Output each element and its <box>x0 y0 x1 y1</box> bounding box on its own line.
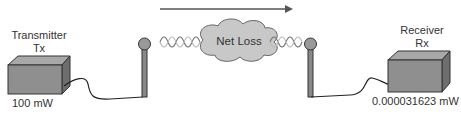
receiver-power: 0.000031623 mW <box>372 95 460 108</box>
receiver-abbr: Rx <box>392 37 452 50</box>
receiver-box <box>388 51 450 92</box>
transmitter-cable <box>64 78 143 99</box>
signal-wave-left <box>160 37 200 47</box>
receiver-title: Receiver <box>392 24 452 37</box>
tx-antenna <box>139 38 151 97</box>
transmitter-abbr: Tx <box>4 42 74 55</box>
rx-antenna <box>305 38 317 97</box>
net-loss-label: Net Loss <box>199 35 279 48</box>
transmitter-title: Transmitter <box>4 29 74 42</box>
direction-arrow <box>160 5 293 13</box>
transmitter-power: 100 mW <box>12 97 62 110</box>
transmitter-box <box>8 56 70 94</box>
